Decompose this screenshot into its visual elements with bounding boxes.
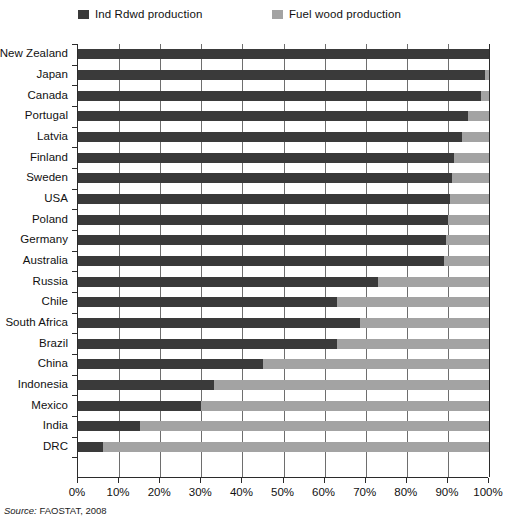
- x-axis-tick-70pct: [365, 478, 366, 483]
- x-axis-tick-90pct: [447, 478, 448, 483]
- stacked-bar-series: [78, 44, 488, 477]
- bar-segment-fuel-wood: [263, 359, 489, 369]
- bar-segment-fuel-wood: [337, 297, 489, 307]
- bar-row: [78, 297, 488, 307]
- bar-row: [78, 277, 488, 287]
- bar-segment-fuel-wood: [214, 380, 489, 390]
- y-axis-label-india: India: [43, 419, 68, 431]
- x-axis-tick-10pct: [118, 478, 119, 483]
- bar-segment-ind-rdwd: [78, 256, 444, 266]
- y-axis-label-usa: USA: [44, 192, 68, 204]
- bar-segment-ind-rdwd: [78, 380, 214, 390]
- y-axis-label-canada: Canada: [27, 89, 68, 101]
- y-axis-label-brazil: Brazil: [39, 337, 68, 349]
- x-axis-label-10pct: 10%: [107, 486, 130, 498]
- bar-segment-ind-rdwd: [78, 297, 337, 307]
- x-axis-tick-labels: 0%10%20%30%40%50%60%70%80%90%100%: [0, 486, 513, 502]
- bar-row: [78, 153, 488, 163]
- legend-item-fuel-wood-production: Fuel wood production: [272, 8, 401, 20]
- bar-segment-fuel-wood: [201, 401, 489, 411]
- bar-row: [78, 380, 488, 390]
- legend-label-ind-rdwd-production: Ind Rdwd production: [95, 8, 202, 20]
- source-prefix: Source:: [4, 505, 37, 516]
- x-axis-label-80pct: 80%: [394, 486, 417, 498]
- y-axis-label-sweden: Sweden: [26, 171, 68, 183]
- bar-segment-fuel-wood: [444, 256, 489, 266]
- bar-row: [78, 194, 488, 204]
- x-axis-label-20pct: 20%: [148, 486, 171, 498]
- x-axis-tick-40pct: [241, 478, 242, 483]
- y-axis-label-germany: Germany: [20, 233, 68, 245]
- bar-row: [78, 70, 488, 80]
- bar-segment-ind-rdwd: [78, 132, 462, 142]
- y-axis-label-russia: Russia: [33, 275, 68, 287]
- bar-row: [78, 132, 488, 142]
- bar-segment-fuel-wood: [103, 442, 489, 452]
- bar-row: [78, 421, 488, 431]
- x-axis-tick-50pct: [283, 478, 284, 483]
- y-axis-label-mexico: Mexico: [31, 399, 68, 411]
- bar-segment-ind-rdwd: [78, 49, 489, 59]
- bar-segment-ind-rdwd: [78, 277, 378, 287]
- bar-segment-fuel-wood: [468, 111, 489, 121]
- bar-row: [78, 442, 488, 452]
- bar-segment-ind-rdwd: [78, 339, 337, 349]
- x-axis-tick-100pct: [488, 478, 489, 483]
- y-axis-label-japan: Japan: [36, 68, 68, 80]
- bar-row: [78, 318, 488, 328]
- x-axis-label-90pct: 90%: [435, 486, 458, 498]
- y-axis-label-indonesia: Indonesia: [18, 378, 68, 390]
- bar-segment-ind-rdwd: [78, 194, 450, 204]
- x-axis-label-60pct: 60%: [312, 486, 335, 498]
- source-text: FAOSTAT, 2008: [39, 505, 106, 516]
- x-axis-label-40pct: 40%: [230, 486, 253, 498]
- plot-area: [77, 44, 488, 478]
- bar-segment-ind-rdwd: [78, 442, 103, 452]
- y-axis-label-china: China: [38, 357, 68, 369]
- y-axis-label-australia: Australia: [23, 254, 68, 266]
- x-axis-ticks: [77, 478, 488, 484]
- bar-segment-ind-rdwd: [78, 318, 360, 328]
- source-note: Source: FAOSTAT, 2008: [4, 505, 107, 516]
- y-axis-label-finland: Finland: [30, 151, 68, 163]
- gridline-100pct: [489, 44, 490, 477]
- bar-row: [78, 359, 488, 369]
- x-axis-label-0pct: 0%: [69, 486, 86, 498]
- legend-label-fuel-wood-production: Fuel wood production: [289, 8, 401, 20]
- y-axis-label-portugal: Portugal: [25, 109, 68, 121]
- bar-segment-fuel-wood: [485, 70, 489, 80]
- bar-segment-ind-rdwd: [78, 235, 446, 245]
- bar-segment-fuel-wood: [450, 194, 489, 204]
- legend-swatch-fuel-wood-production: [272, 10, 283, 19]
- bar-row: [78, 339, 488, 349]
- bar-segment-ind-rdwd: [78, 401, 201, 411]
- y-axis-label-drc: DRC: [43, 440, 68, 452]
- bar-row: [78, 49, 488, 59]
- legend-swatch-ind-rdwd-production: [78, 10, 89, 19]
- bar-segment-ind-rdwd: [78, 359, 263, 369]
- chart-legend: Ind Rdwd production Fuel wood production: [0, 8, 513, 30]
- bar-segment-fuel-wood: [337, 339, 489, 349]
- bar-segment-fuel-wood: [446, 235, 489, 245]
- x-axis-label-100pct: 100%: [473, 486, 502, 498]
- bar-segment-fuel-wood: [448, 215, 489, 225]
- legend-item-ind-rdwd-production: Ind Rdwd production: [78, 8, 202, 20]
- bar-segment-fuel-wood: [360, 318, 489, 328]
- x-axis-label-50pct: 50%: [271, 486, 294, 498]
- x-axis-tick-0pct: [77, 478, 78, 483]
- y-axis-label-chile: Chile: [42, 295, 68, 307]
- y-axis-label-latvia: Latvia: [37, 130, 68, 142]
- x-axis-tick-80pct: [406, 478, 407, 483]
- bar-row: [78, 235, 488, 245]
- bar-segment-fuel-wood: [462, 132, 489, 142]
- y-axis-category-labels: New ZealandJapanCanadaPortugalLatviaFinl…: [0, 44, 77, 478]
- x-axis-tick-20pct: [159, 478, 160, 483]
- y-axis-label-poland: Poland: [32, 213, 68, 225]
- y-axis-label-new-zealand: New Zealand: [0, 47, 68, 59]
- x-axis-tick-60pct: [324, 478, 325, 483]
- bar-segment-fuel-wood: [481, 91, 489, 101]
- bar-row: [78, 173, 488, 183]
- bar-segment-ind-rdwd: [78, 111, 468, 121]
- bar-segment-ind-rdwd: [78, 70, 485, 80]
- bar-segment-fuel-wood: [140, 421, 489, 431]
